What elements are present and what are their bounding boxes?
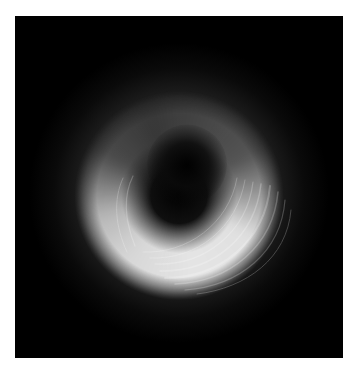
running-header [150,0,350,5]
polarization-streaks [15,16,343,358]
black-hole-image-panel [15,16,343,358]
